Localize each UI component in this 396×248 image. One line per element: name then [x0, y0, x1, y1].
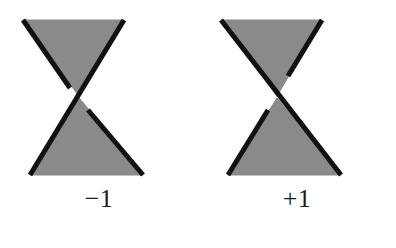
crossing-label-positive: +1 — [198, 186, 396, 212]
lower-triangle-fill — [30, 97, 143, 175]
lower-triangle-fill — [228, 97, 341, 175]
crossing-figure-positive: +1 — [198, 0, 396, 248]
crossing-figure-negative: −1 — [0, 0, 198, 248]
positive-crossing-diagram — [198, 0, 396, 198]
crossing-label-negative: −1 — [0, 186, 198, 212]
negative-crossing-diagram — [0, 0, 198, 198]
upper-triangle-fill — [23, 20, 124, 97]
crossing-sign-figure: −1 +1 — [0, 0, 396, 248]
